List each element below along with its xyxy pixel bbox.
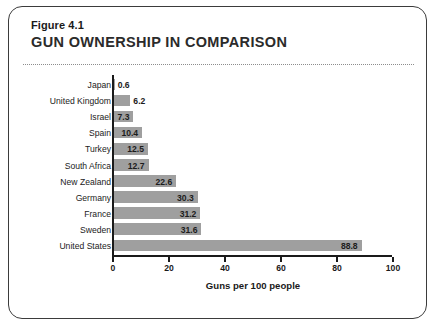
bar-rows: Japan0.6United Kingdom6.2Israel7.3Spain1… [9, 77, 427, 254]
bar-category-label: France [84, 209, 111, 219]
x-tick [280, 257, 282, 262]
x-tick [168, 257, 170, 262]
bar-value-label: 6.2 [133, 96, 145, 106]
bar-row: South Africa12.7 [9, 157, 427, 173]
bar-category-label: Turkey [85, 144, 111, 154]
bar-track: 0.6 [113, 77, 393, 93]
bar-row: United States88.8 [9, 238, 427, 254]
bar-value-label: 12.7 [128, 161, 145, 171]
bar-row: New Zealand22.6 [9, 174, 427, 190]
bar-row: Japan0.6 [9, 77, 427, 93]
x-tick [336, 257, 338, 262]
bar-value-label: 10.4 [121, 128, 138, 138]
figure-number: Figure 4.1 [31, 19, 84, 31]
bar-value-label: 31.2 [180, 209, 197, 219]
title-divider [23, 64, 414, 65]
bar-value-label: 30.3 [177, 193, 194, 203]
y-axis-line [112, 75, 114, 255]
bar-row: Spain10.4 [9, 125, 427, 141]
bar-row: France31.2 [9, 206, 427, 222]
bar-track: 88.8 [113, 238, 393, 254]
bar-value-label: 22.6 [156, 177, 173, 187]
bar-category-label: South Africa [65, 161, 111, 171]
x-tick-label: 0 [111, 263, 116, 273]
bar-category-label: Spain [89, 128, 111, 138]
x-tick-label: 60 [276, 263, 286, 273]
x-axis-title: Guns per 100 people [113, 280, 393, 291]
bar-value-label: 7.3 [117, 112, 129, 122]
bar-track: 30.3 [113, 190, 393, 206]
bar-row: Turkey12.5 [9, 141, 427, 157]
bar-track: 31.2 [113, 206, 393, 222]
bar-track: 6.2 [113, 93, 393, 109]
bar-value-label: 0.6 [118, 80, 130, 90]
bar [113, 240, 362, 252]
bar-chart: Japan0.6United Kingdom6.2Israel7.3Spain1… [9, 73, 427, 319]
x-axis-line [112, 255, 392, 257]
bar-track: 7.3 [113, 109, 393, 125]
bar-value-label: 12.5 [127, 144, 144, 154]
bar-track: 22.6 [113, 174, 393, 190]
bar-row: Germany30.3 [9, 190, 427, 206]
bar-value-label: 31.6 [181, 225, 198, 235]
bar-row: Israel7.3 [9, 109, 427, 125]
x-tick-label: 80 [332, 263, 342, 273]
bar-category-label: United Kingdom [50, 96, 111, 106]
bar-track: 12.5 [113, 141, 393, 157]
figure-title: GUN OWNERSHIP IN COMPARISON [31, 34, 287, 50]
bar-track: 10.4 [113, 125, 393, 141]
bar-category-label: Sweden [80, 225, 111, 235]
x-tick [112, 257, 114, 262]
x-tick-label: 20 [164, 263, 174, 273]
bar-value-label: 88.8 [341, 241, 358, 251]
bar-category-label: Israel [90, 112, 111, 122]
bar-category-label: Japan [88, 80, 111, 90]
x-tick-label: 40 [220, 263, 230, 273]
x-tick-label: 100 [386, 263, 400, 273]
x-tick [224, 257, 226, 262]
bar-category-label: Germany [76, 193, 111, 203]
figure-card: Figure 4.1 GUN OWNERSHIP IN COMPARISON J… [8, 6, 427, 319]
bar-track: 31.6 [113, 222, 393, 238]
bar-category-label: United States [59, 241, 111, 251]
bar-track: 12.7 [113, 157, 393, 173]
x-tick [392, 257, 394, 262]
bar-row: Sweden31.6 [9, 222, 427, 238]
bar [113, 95, 130, 107]
bar-category-label: New Zealand [60, 177, 111, 187]
bar-row: United Kingdom6.2 [9, 93, 427, 109]
